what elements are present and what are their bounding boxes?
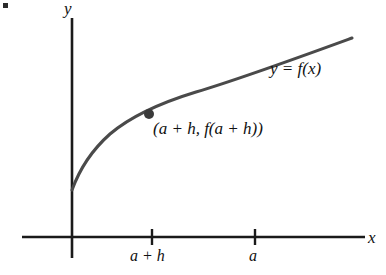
curve-equation-label: y = f(x) (270, 60, 321, 77)
x-tick-label-a: a (249, 248, 257, 264)
marked-point-label: (a + h, f(a + h)) (153, 120, 263, 137)
marked-point-a-plus-h (144, 109, 154, 119)
y-axis-label: y (64, 0, 72, 17)
x-tick-label-a-plus-h: a + h (130, 248, 165, 264)
x-axis-label: x (368, 229, 376, 246)
function-graph-figure: y x y = f(x) (a + h, f(a + h)) a + h a (0, 0, 386, 275)
